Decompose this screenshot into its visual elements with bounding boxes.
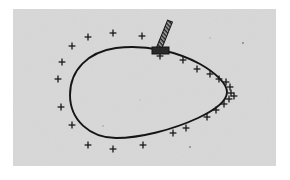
scan-panel (13, 9, 276, 166)
figure-root (0, 0, 290, 180)
speck (139, 99, 140, 100)
speck (242, 42, 244, 44)
speck (102, 125, 104, 127)
scan-panel-grain (13, 9, 276, 166)
speck (209, 37, 210, 38)
speck (189, 146, 191, 148)
probe-base-plate (152, 47, 169, 54)
diagram-canvas (0, 0, 290, 180)
